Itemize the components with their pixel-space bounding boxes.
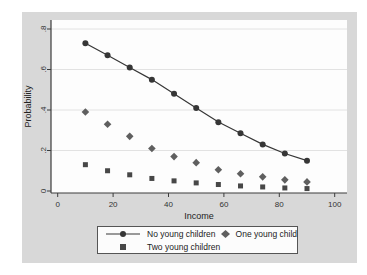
data-point-square	[305, 186, 310, 191]
data-point-square	[282, 185, 287, 190]
plot-area	[51, 20, 347, 193]
square-marker-icon	[104, 242, 142, 252]
legend-entry-two-young-children: Two young children	[104, 242, 239, 252]
y-tick-label: .4	[39, 106, 48, 113]
data-point-circle	[282, 151, 288, 157]
legend-label-two-young-children: Two young children	[147, 242, 220, 252]
y-tick-label: .2	[39, 147, 48, 154]
data-point-circle	[82, 40, 88, 46]
diamond-marker-icon	[220, 229, 231, 239]
y-tick-label: 0	[39, 188, 48, 193]
data-point-circle	[304, 158, 310, 164]
chart-figure: 0.2.4.6.8020406080100ProbabilityIncome N…	[22, 12, 357, 263]
legend-label-no-young-children: No young children	[147, 229, 216, 239]
legend: No young children One young child Two yo…	[97, 226, 298, 254]
data-point-circle	[260, 141, 266, 147]
data-point-circle	[149, 77, 155, 83]
legend-label-one-young-child: One young child	[236, 229, 297, 239]
y-tick-label: .8	[39, 25, 48, 32]
data-point-circle	[193, 105, 199, 111]
x-tick-label: 100	[328, 200, 342, 209]
x-tick-label: 20	[109, 200, 118, 209]
data-point-circle	[127, 64, 133, 70]
x-tick-label: 80	[275, 200, 284, 209]
data-point-circle	[105, 52, 111, 58]
data-point-square	[83, 162, 88, 167]
legend-entry-one-young-child: One young child	[220, 229, 297, 239]
legend-entry-no-young-children: No young children	[104, 229, 220, 239]
data-point-square	[238, 183, 243, 188]
legend-row-1: No young children One young child	[98, 227, 297, 240]
data-point-square	[149, 176, 154, 181]
data-point-square	[194, 180, 199, 185]
data-point-circle	[215, 119, 221, 125]
data-point-square	[127, 172, 132, 177]
line-circle-marker-icon	[104, 229, 142, 239]
data-point-square	[172, 178, 177, 183]
data-point-square	[105, 168, 110, 173]
x-tick-label: 40	[164, 200, 173, 209]
data-point-square	[260, 184, 265, 189]
y-tick-label: .6	[39, 66, 48, 73]
legend-row-2: Two young children	[98, 240, 297, 253]
y-axis-title: Probability	[23, 85, 33, 128]
data-point-square	[216, 182, 221, 187]
x-tick-label: 0	[55, 200, 60, 209]
x-axis-title: Income	[184, 211, 214, 221]
x-tick-label: 60	[219, 200, 228, 209]
data-point-circle	[171, 91, 177, 97]
data-point-circle	[238, 130, 244, 136]
